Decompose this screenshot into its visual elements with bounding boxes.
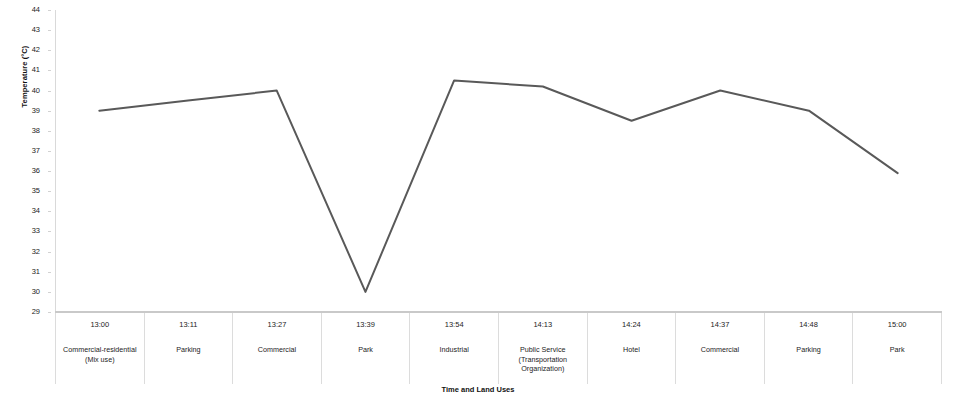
plot-wrapper: 29303132333435363738394041424344 <box>14 4 942 312</box>
category-time-label: 13:39 <box>325 320 407 330</box>
y-axis-tick-label: 39 <box>32 107 40 115</box>
temperature-series-line <box>55 4 942 312</box>
x-axis-title: Time and Land Uses <box>0 385 956 394</box>
category-landuse-label: Parking <box>768 345 850 355</box>
category-time-label: 14:24 <box>591 320 673 330</box>
category-time-label: 15:00 <box>856 320 938 330</box>
line-chart: Temperature (°C) 29303132333435363738394… <box>0 0 956 403</box>
y-axis-tick-mark <box>48 30 51 31</box>
category-cell: 15:00Park <box>853 313 942 384</box>
y-axis-tick-label: 35 <box>32 187 40 195</box>
y-axis-tick-label: 43 <box>32 26 40 34</box>
category-landuse-label: Park <box>856 345 938 355</box>
y-axis-ticks: 29303132333435363738394041424344 <box>14 4 48 312</box>
category-cell: 13:00Commercial-residential (Mix use) <box>55 313 145 384</box>
y-axis-tick-label: 36 <box>32 167 40 175</box>
y-axis-tick-mark <box>48 111 51 112</box>
category-cell: 13:54Industrial <box>410 313 499 384</box>
y-axis-tick-mark <box>48 151 51 152</box>
category-landuse-label: Commercial <box>679 345 761 355</box>
category-landuse-label: Parking <box>148 345 230 355</box>
category-time-label: 14:37 <box>679 320 761 330</box>
y-axis-tick-mark <box>48 171 51 172</box>
y-axis-tick-label: 38 <box>32 127 40 135</box>
y-axis-tick-label: 41 <box>32 66 40 74</box>
y-axis-tick-mark <box>48 231 51 232</box>
y-axis-tick-mark <box>48 10 51 11</box>
y-axis-tick-label: 37 <box>32 147 40 155</box>
y-axis-tick-mark <box>48 292 51 293</box>
y-axis-tick-mark <box>48 211 51 212</box>
y-axis-tick-mark <box>48 70 51 71</box>
y-axis-tick-label: 33 <box>32 227 40 235</box>
category-landuse-label: Hotel <box>591 345 673 355</box>
y-axis-tick-mark <box>48 272 51 273</box>
y-axis-tick-label: 44 <box>32 6 40 14</box>
category-landuse-label: Park <box>325 345 407 355</box>
category-time-label: 13:54 <box>413 320 495 330</box>
category-landuse-label: Public Service (Transportation Organizat… <box>502 345 584 374</box>
y-axis-tick-label: 34 <box>32 207 40 215</box>
y-axis-tick-label: 32 <box>32 248 40 256</box>
y-axis-tick-label: 42 <box>32 46 40 54</box>
category-landuse-label: Commercial <box>236 345 318 355</box>
y-axis-tick-mark <box>48 91 51 92</box>
category-cell: 13:39Park <box>322 313 411 384</box>
y-axis-tick-mark <box>48 252 51 253</box>
y-axis-tick-mark <box>48 191 51 192</box>
category-time-label: 13:11 <box>148 320 230 330</box>
category-time-label: 13:00 <box>59 320 141 330</box>
category-time-label: 13:27 <box>236 320 318 330</box>
category-cell: 14:37Commercial <box>676 313 765 384</box>
y-axis-tick-mark <box>48 50 51 51</box>
category-landuse-label: Industrial <box>413 345 495 355</box>
category-landuse-label: Commercial-residential (Mix use) <box>59 345 141 364</box>
category-cell: 14:13Public Service (Transportation Orga… <box>499 313 588 384</box>
category-axis-table: 13:00Commercial-residential (Mix use)13:… <box>55 312 942 384</box>
y-axis-tick-label: 29 <box>32 308 40 316</box>
series-polyline <box>99 80 897 291</box>
category-time-label: 14:48 <box>768 320 850 330</box>
y-axis-tick-label: 40 <box>32 87 40 95</box>
category-cell: 14:48Parking <box>765 313 854 384</box>
category-cell: 13:11Parking <box>145 313 234 384</box>
y-axis-tick-mark <box>48 312 51 313</box>
category-time-label: 14:13 <box>502 320 584 330</box>
y-axis-tick-label: 31 <box>32 268 40 276</box>
y-axis-tick-label: 30 <box>32 288 40 296</box>
y-axis-tick-mark <box>48 131 51 132</box>
plot-area <box>55 4 942 312</box>
category-cell: 14:24Hotel <box>588 313 677 384</box>
category-cell: 13:27Commercial <box>233 313 322 384</box>
